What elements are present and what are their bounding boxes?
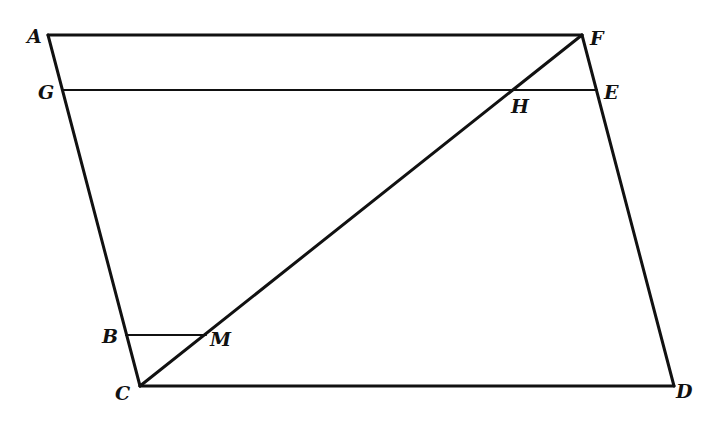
label-F: F bbox=[589, 27, 605, 49]
segment-AC bbox=[48, 35, 140, 386]
label-G: G bbox=[38, 81, 54, 103]
label-C: C bbox=[115, 382, 130, 404]
geometry-diagram: A F G E H B M C D bbox=[0, 0, 720, 425]
label-B: B bbox=[101, 325, 118, 347]
label-H: H bbox=[510, 95, 530, 117]
label-E: E bbox=[603, 81, 619, 103]
segment-CF bbox=[140, 35, 582, 386]
label-A: A bbox=[25, 25, 42, 47]
segment-FD bbox=[582, 35, 674, 386]
label-M: M bbox=[209, 328, 232, 350]
label-D: D bbox=[675, 380, 693, 402]
